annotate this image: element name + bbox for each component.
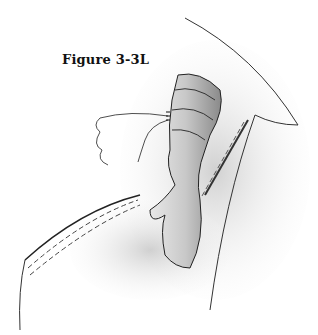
figure-illustration: Figure 3-3L — [0, 0, 318, 335]
surgical-illustration — [0, 0, 318, 335]
